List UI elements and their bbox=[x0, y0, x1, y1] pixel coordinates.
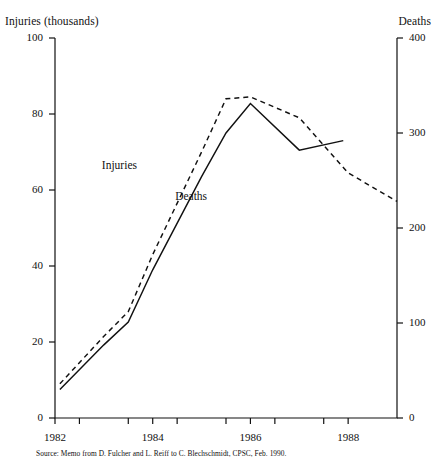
left-tick-label-60: 60 bbox=[0, 183, 43, 195]
axes-group bbox=[55, 38, 397, 418]
right-tick-label-100: 100 bbox=[409, 316, 437, 328]
chart-plot-area bbox=[0, 0, 437, 464]
series-label-injuries: Injuries bbox=[102, 159, 137, 171]
x-tick-label-1982: 1982 bbox=[30, 431, 80, 443]
left-tick-label-20: 20 bbox=[0, 335, 43, 347]
right-tick-label-0: 0 bbox=[409, 411, 437, 423]
right-tick-label-200: 200 bbox=[409, 221, 437, 233]
x-tick-label-1988: 1988 bbox=[323, 431, 373, 443]
source-note: Source: Memo from D. Fulcher and L. Reif… bbox=[36, 449, 287, 458]
series-label-deaths: Deaths bbox=[175, 190, 207, 202]
x-tick-label-1984: 1984 bbox=[128, 431, 178, 443]
left-tick-label-80: 80 bbox=[0, 107, 43, 119]
axis-frame bbox=[55, 38, 397, 418]
left-tick-label-0: 0 bbox=[0, 411, 43, 423]
right-tick-label-300: 300 bbox=[409, 126, 437, 138]
x-tick-label-1986: 1986 bbox=[225, 431, 275, 443]
series-line-deaths bbox=[60, 104, 343, 390]
series-line-injuries bbox=[60, 97, 397, 384]
left-tick-label-40: 40 bbox=[0, 259, 43, 271]
data-series-group bbox=[60, 97, 397, 390]
tick-marks-group bbox=[49, 38, 403, 424]
left-tick-label-100: 100 bbox=[0, 31, 43, 43]
right-tick-label-400: 400 bbox=[409, 31, 437, 43]
chart-figure: Injuries (thousands) Deaths 020406080100… bbox=[0, 0, 437, 464]
